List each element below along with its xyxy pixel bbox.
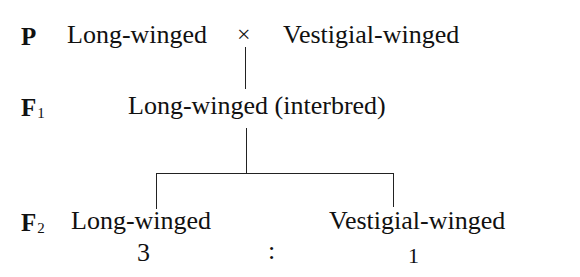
cross-symbol: × [237,22,251,46]
connector-f2-left-drop [156,173,157,209]
f2-left-phenotype: Long-winged [71,208,211,234]
label-text: P [21,23,36,50]
f1-phenotype: Long-winged (interbred) [128,93,386,119]
ratio-left: 3 [137,240,150,266]
connector-f2-horizontal [156,173,394,174]
ratio-right: 1 [408,245,419,267]
generation-label-f1: F1 [21,95,45,121]
label-subscript: 1 [37,105,45,121]
connector-f1-down [246,128,247,174]
parent-right-phenotype: Vestigial-winged [283,22,459,48]
generation-label-p: P [21,24,36,49]
parent-left-phenotype: Long-winged [67,22,207,48]
connector-p-f1 [245,47,246,89]
label-text: F [21,209,36,236]
f2-right-phenotype: Vestigial-winged [329,208,505,234]
label-subscript: 2 [37,220,45,236]
label-text: F [21,94,36,121]
generation-label-f2: F2 [21,210,45,236]
connector-f2-right-drop [393,173,394,207]
ratio-separator: : [268,238,275,264]
